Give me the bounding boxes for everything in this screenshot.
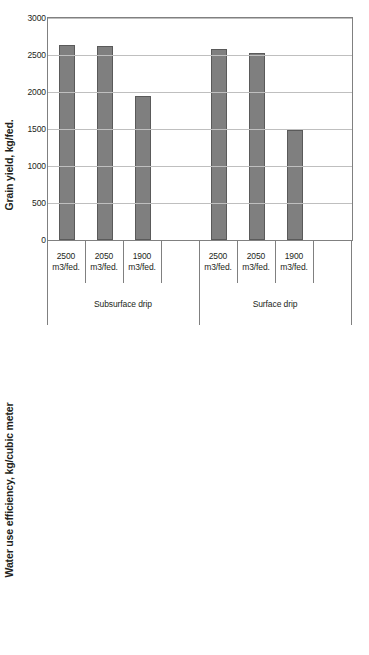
category-unit: m3/fed. xyxy=(204,262,232,274)
category-separator xyxy=(275,241,276,283)
y-axis-tick-label: 500 xyxy=(32,198,46,208)
category-volume: 2500 xyxy=(57,251,76,263)
group-separator xyxy=(47,241,48,325)
y-axis-tick-label: 0 xyxy=(41,235,46,245)
chart-grain-yield: Grain yield, kg/fed. 0500100015002000250… xyxy=(0,0,369,330)
y-axis-tick-label: 3000 xyxy=(27,13,46,23)
category-volume: 2050 xyxy=(95,251,114,263)
category-volume: 1900 xyxy=(133,251,152,263)
bar xyxy=(97,46,112,240)
figure-root: Grain yield, kg/fed. 0500100015002000250… xyxy=(0,0,369,655)
category-unit: m3/fed. xyxy=(52,262,80,274)
bar xyxy=(135,96,150,240)
category-tick-label: 2050m3/fed. xyxy=(237,241,275,283)
group-separator xyxy=(351,241,352,325)
category-tick-label: 2500m3/fed. xyxy=(47,241,85,283)
y-axis-tick-label: 1500 xyxy=(27,124,46,134)
gridline xyxy=(48,129,352,130)
y-axis-tick-label: 1000 xyxy=(27,161,46,171)
category-separator xyxy=(313,241,314,283)
y-axis-title-water-use-efficiency: Water use efficiency, kg/cubic meter xyxy=(0,325,18,655)
gridline xyxy=(48,92,352,93)
category-volume: 1900 xyxy=(285,251,304,263)
category-tick-label: 2500m3/fed. xyxy=(199,241,237,283)
category-unit: m3/fed. xyxy=(128,262,156,274)
category-tick-label: 1900m3/fed. xyxy=(123,241,161,283)
category-volume: 2500 xyxy=(209,251,228,263)
category-separator xyxy=(161,241,162,283)
category-unit: m3/fed. xyxy=(90,262,118,274)
category-separator xyxy=(85,241,86,283)
category-axis-grain-yield: 2500m3/fed.2050m3/fed.1900m3/fed.2500m3/… xyxy=(47,241,353,325)
y-axis-tick-label: 2000 xyxy=(27,87,46,97)
y-axis-tick-labels-top: 050010001500200025003000 xyxy=(14,17,46,241)
gridline xyxy=(48,55,352,56)
category-separator xyxy=(237,241,238,283)
plot-area-grain-yield xyxy=(47,17,353,241)
chart-water-use-efficiency: Water use efficiency, kg/cubic meter 00.… xyxy=(0,325,369,655)
group-axis-label: Surface drip xyxy=(199,283,351,325)
group-axis-label: Subsurface drip xyxy=(47,283,199,325)
category-tick-label: 1900m3/fed. xyxy=(275,241,313,283)
bar xyxy=(249,53,264,240)
group-separator xyxy=(199,241,200,325)
gridline xyxy=(48,18,352,19)
category-unit: m3/fed. xyxy=(280,262,308,274)
gridline xyxy=(48,166,352,167)
bar xyxy=(211,49,226,240)
gridline xyxy=(48,203,352,204)
y-axis-tick-label: 2500 xyxy=(27,50,46,60)
bar xyxy=(287,130,302,240)
category-tick-label: 2050m3/fed. xyxy=(85,241,123,283)
category-separator xyxy=(123,241,124,283)
category-unit: m3/fed. xyxy=(242,262,270,274)
category-volume: 2050 xyxy=(247,251,266,263)
y-axis-title-text: Water use efficiency, kg/cubic meter xyxy=(3,403,15,578)
bar xyxy=(59,45,74,240)
